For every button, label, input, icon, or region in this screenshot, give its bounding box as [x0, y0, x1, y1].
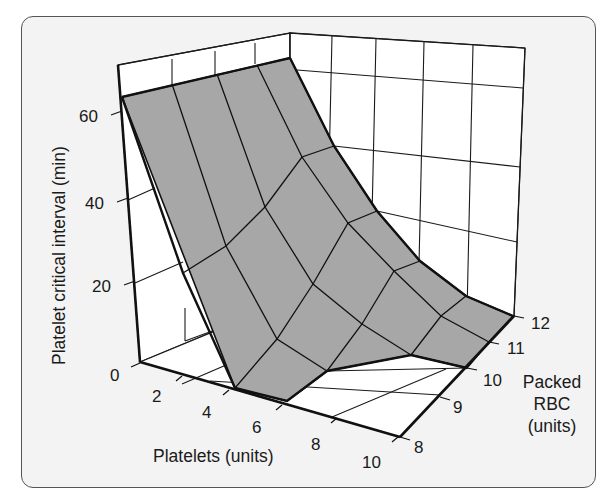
z-tick-20: 20	[92, 277, 111, 296]
x-tick-10: 10	[362, 453, 381, 472]
y-tick-12: 12	[531, 314, 550, 333]
y-axis-title-line3: (units)	[528, 416, 577, 436]
y-tick-9: 9	[453, 398, 462, 417]
y-axis-title-line2: RBC	[534, 394, 571, 414]
x-tick-8: 8	[311, 435, 320, 454]
surface-plot: 60 40 20 0 2 4 6 8 10 8 9 10 11 12 Plate…	[0, 0, 613, 502]
z-tick-0: 0	[110, 366, 119, 385]
y-axis-title-line1: Packed	[523, 372, 581, 392]
z-axis-title: Platelet critical interval (min)	[49, 146, 69, 365]
z-tick-40: 40	[85, 194, 104, 213]
y-tick-10: 10	[483, 371, 502, 390]
y-tick-8: 8	[414, 438, 423, 457]
x-axis-title: Platelets (units)	[153, 446, 274, 466]
x-tick-4: 4	[202, 403, 211, 422]
y-tick-11: 11	[507, 339, 525, 358]
x-tick-2: 2	[152, 387, 161, 406]
z-tick-60: 60	[79, 107, 98, 126]
x-tick-6: 6	[252, 418, 261, 437]
